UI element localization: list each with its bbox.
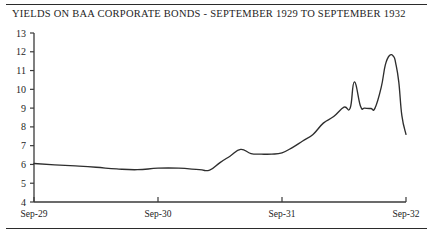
line-chart-plot: 45678910111213 Sep-29Sep-30Sep-31Sep-32 xyxy=(0,0,433,237)
y-tick-label: 6 xyxy=(21,159,26,170)
x-tick-label: Sep-29 xyxy=(21,209,48,219)
y-tick-label: 4 xyxy=(21,197,26,208)
x-axis: Sep-29Sep-30Sep-31Sep-32 xyxy=(21,197,420,219)
y-tick-label: 8 xyxy=(21,121,26,132)
bottom-divider xyxy=(6,228,427,229)
y-tick-label: 7 xyxy=(21,140,26,151)
x-tick-marks xyxy=(34,197,406,202)
chart-page: YIELDS ON BAA CORPORATE BONDS - SEPTEMBE… xyxy=(0,0,433,237)
y-tick-label: 9 xyxy=(21,103,26,114)
y-tick-label: 13 xyxy=(16,28,26,39)
y-tick-label: 12 xyxy=(16,46,26,57)
y-tick-label: 5 xyxy=(21,178,26,189)
y-tick-label: 10 xyxy=(16,84,26,95)
series-line-baa-yield xyxy=(34,55,406,171)
y-axis: 45678910111213 xyxy=(16,28,34,208)
x-tick-label: Sep-32 xyxy=(393,209,420,219)
y-tick-labels: 45678910111213 xyxy=(16,28,26,208)
x-tick-labels: Sep-29Sep-30Sep-31Sep-32 xyxy=(21,209,420,219)
x-tick-label: Sep-31 xyxy=(269,209,296,219)
y-tick-label: 11 xyxy=(16,65,26,76)
x-tick-label: Sep-30 xyxy=(145,209,172,219)
